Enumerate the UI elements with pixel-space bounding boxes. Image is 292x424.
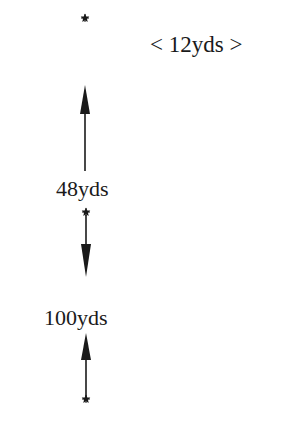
diagram-graphics [0, 0, 292, 424]
star-icon [82, 208, 91, 217]
width-label: < 12yds > [150, 34, 242, 56]
arrow-up-icon [81, 333, 91, 397]
arrow-down-icon [81, 215, 91, 277]
star-icon [81, 14, 90, 23]
distance-label-48: 48yds [56, 178, 109, 200]
star-icon [82, 395, 91, 404]
arrow-up-icon [80, 85, 90, 171]
distance-label-100: 100yds [44, 307, 108, 329]
yardage-diagram: < 12yds > 48yds 100yds [0, 0, 292, 424]
